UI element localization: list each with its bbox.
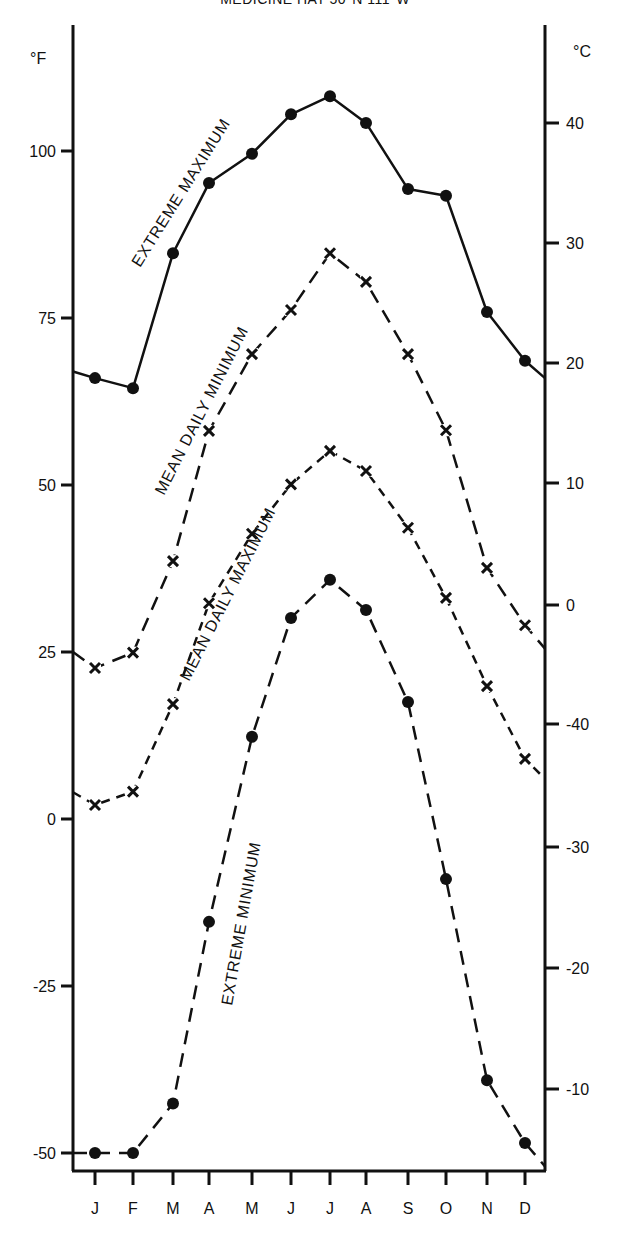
right-tick-label: -20: [566, 960, 589, 977]
curve-labels: EXTREME MAXIMUMMEAN DAILY MINIMUMMEAN DA…: [128, 115, 279, 1006]
month-label: J: [326, 1200, 334, 1217]
left-tick-label: 25: [38, 644, 56, 661]
cross-marker-icon: [285, 304, 297, 316]
right-tick-label: -40: [566, 716, 589, 733]
cross-marker-icon: [246, 348, 258, 360]
cross-marker-icon: [519, 619, 531, 631]
dot-marker-icon: [127, 1147, 139, 1159]
cross-marker-icon: [127, 647, 139, 659]
series-line: [73, 580, 545, 1167]
dot-marker-icon: [324, 90, 336, 102]
curve-label: MEAN DAILY MAXIMUM: [177, 505, 279, 683]
cross-marker-icon: [402, 348, 414, 360]
cross-marker-icon: [89, 662, 101, 674]
dot-marker-icon: [402, 696, 414, 708]
left-tick-label: -50: [33, 1145, 56, 1162]
month-label: A: [204, 1200, 215, 1217]
cross-marker-icon: [481, 680, 493, 692]
right-axis-unit: °C: [573, 43, 591, 60]
dot-marker-icon: [203, 916, 215, 928]
cross-marker-icon: [167, 698, 179, 710]
right-tick-label: 40: [566, 115, 584, 132]
cross-marker-icon: [167, 555, 179, 567]
left-tick-label: 75: [38, 310, 56, 327]
axes: °F1007550250-25-50°C403020100-40-30-20-1…: [29, 25, 591, 1217]
cross-marker-icon: [360, 465, 372, 477]
dot-marker-icon: [324, 574, 336, 586]
cross-marker-icon: [440, 592, 452, 604]
curve-label: MEAN DAILY MINIMUM: [152, 324, 252, 498]
dot-marker-icon: [360, 604, 372, 616]
month-label: M: [166, 1200, 179, 1217]
dot-marker-icon: [519, 355, 531, 367]
dot-marker-icon: [285, 612, 297, 624]
left-tick-label: 50: [38, 477, 56, 494]
cross-marker-icon: [324, 247, 336, 259]
dot-marker-icon: [89, 1147, 101, 1159]
right-tick-label: 10: [566, 475, 584, 492]
cross-marker-icon: [285, 478, 297, 490]
month-label: J: [287, 1200, 295, 1217]
cross-marker-icon: [402, 522, 414, 534]
cross-marker-icon: [324, 445, 336, 457]
dot-marker-icon: [481, 1074, 493, 1086]
dot-marker-icon: [440, 190, 452, 202]
cross-marker-icon: [519, 753, 531, 765]
dot-marker-icon: [167, 247, 179, 259]
right-tick-label: 20: [566, 355, 584, 372]
cross-marker-icon: [203, 425, 215, 437]
dot-marker-icon: [167, 1098, 179, 1110]
dot-marker-icon: [246, 731, 258, 743]
dot-marker-icon: [481, 306, 493, 318]
dot-marker-icon: [89, 372, 101, 384]
dot-marker-icon: [246, 148, 258, 160]
cross-marker-icon: [360, 276, 372, 288]
series-line: [73, 253, 545, 668]
cross-marker-icon: [440, 424, 452, 436]
right-tick-label: 0: [566, 597, 575, 614]
dot-marker-icon: [203, 177, 215, 189]
right-tick-label: -10: [566, 1081, 589, 1098]
cross-marker-icon: [127, 786, 139, 798]
dot-marker-icon: [519, 1137, 531, 1149]
month-label: O: [440, 1200, 452, 1217]
dot-marker-icon: [360, 117, 372, 129]
month-label: J: [91, 1200, 99, 1217]
month-label: M: [245, 1200, 258, 1217]
left-tick-label: 100: [29, 143, 56, 160]
month-label: F: [128, 1200, 138, 1217]
cross-marker-icon: [89, 799, 101, 811]
dot-marker-icon: [440, 873, 452, 885]
left-axis-unit: °F: [30, 50, 46, 67]
month-label: N: [481, 1200, 493, 1217]
climate-chart: °F1007550250-25-50°C403020100-40-30-20-1…: [0, 0, 630, 1242]
cross-marker-icon: [481, 562, 493, 574]
dot-marker-icon: [402, 183, 414, 195]
left-tick-label: -25: [33, 978, 56, 995]
curve-label: EXTREME MAXIMUM: [128, 115, 233, 269]
dot-marker-icon: [285, 108, 297, 120]
month-label: A: [361, 1200, 372, 1217]
left-tick-label: 0: [47, 811, 56, 828]
dot-marker-icon: [127, 382, 139, 394]
right-tick-label: 30: [566, 235, 584, 252]
curve-label: EXTREME MINIMUM: [218, 840, 264, 1006]
right-tick-label: -30: [566, 839, 589, 856]
month-label: S: [403, 1200, 414, 1217]
month-label: D: [519, 1200, 531, 1217]
